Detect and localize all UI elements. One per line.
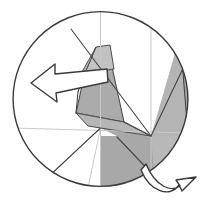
fold-diagram-svg: [0, 0, 202, 204]
figure-root: Paper folding diagram: [0, 0, 202, 204]
region-lower-right-inner-triangle: [151, 136, 188, 182]
